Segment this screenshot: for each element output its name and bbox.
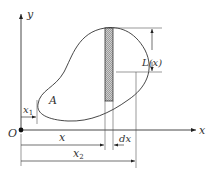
region-label: A bbox=[48, 94, 57, 107]
x-axis-label: x bbox=[199, 124, 206, 137]
x-label: x bbox=[59, 131, 66, 144]
origin-label: O bbox=[8, 127, 17, 140]
region-a-outline bbox=[38, 28, 149, 122]
hatched-strip bbox=[105, 28, 113, 101]
x1-label: x1 bbox=[23, 104, 33, 117]
strip-height-label: L(x) bbox=[141, 57, 162, 68]
area-diagram: y x O A L(x) x1 x dx x2 bbox=[0, 0, 208, 179]
dx-label: dx bbox=[119, 133, 131, 144]
x2-label: x2 bbox=[73, 147, 84, 161]
origin-dot bbox=[19, 128, 24, 133]
y-axis-label: y bbox=[26, 8, 34, 21]
